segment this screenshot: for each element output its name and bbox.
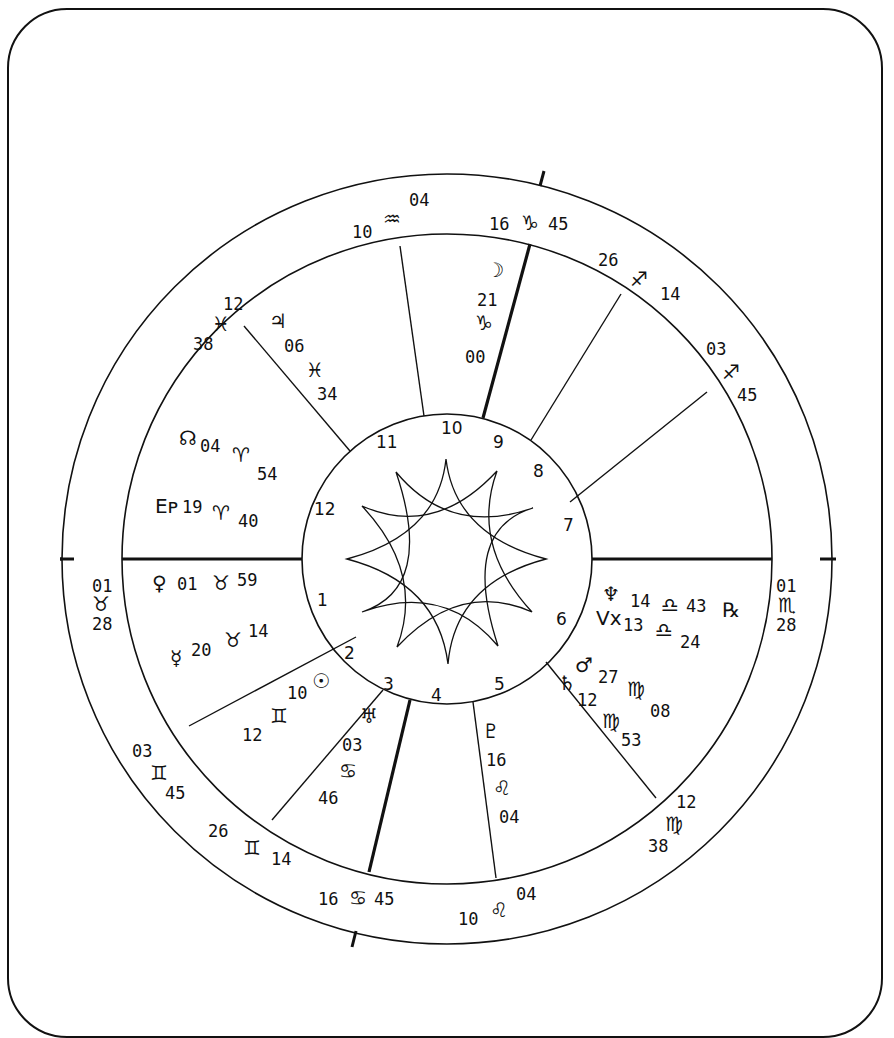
svg-text:10: 10 [352, 222, 372, 242]
svg-text:28: 28 [92, 614, 112, 634]
svg-text:26: 26 [208, 821, 228, 841]
svg-text:♈: ♈ [212, 501, 230, 525]
uranus-icon: ♅ [360, 704, 378, 728]
vertex-icon: Vx [596, 606, 622, 630]
svg-text:03: 03 [706, 339, 726, 359]
svg-text:14: 14 [271, 849, 291, 869]
planet-sun: ☉ 10 ♊ 12 [242, 669, 330, 745]
house-number: 2 [344, 643, 355, 663]
venus-icon: ♀ [152, 571, 167, 595]
svg-text:59: 59 [237, 570, 257, 590]
svg-text:19: 19 [182, 497, 202, 517]
svg-text:28: 28 [776, 615, 796, 635]
svg-text:14: 14 [660, 284, 680, 304]
svg-text:♑: ♑ [521, 211, 539, 235]
svg-text:00: 00 [465, 347, 485, 367]
svg-text:40: 40 [238, 511, 258, 531]
svg-text:♓: ♓ [306, 358, 324, 382]
svg-text:♍: ♍ [627, 677, 645, 701]
cusp-3: 26 ♊ 14 [208, 821, 291, 869]
svg-text:10: 10 [287, 683, 307, 703]
svg-text:14: 14 [248, 621, 268, 641]
svg-text:♐: ♐ [722, 360, 740, 384]
house-number: 11 [376, 432, 398, 452]
planet-mars: ♂ 27 ♍ 08 [575, 653, 670, 721]
svg-text:♌: ♌ [493, 776, 511, 800]
imum-coeli-tick [352, 931, 356, 947]
svg-text:♓: ♓ [212, 312, 230, 336]
svg-text:14: 14 [630, 591, 650, 611]
svg-text:38: 38 [193, 334, 213, 354]
svg-text:16: 16 [486, 750, 506, 770]
planet-vertex: Vx 13 ♎ 24 [596, 606, 700, 652]
mercury-icon: ☿ [170, 646, 182, 670]
svg-text:♈: ♈ [232, 443, 250, 467]
svg-text:46: 46 [318, 788, 338, 808]
svg-text:♏: ♏ [778, 593, 796, 617]
earth-point-icon: Eᴘ [155, 494, 178, 518]
planet-earth-point: Eᴘ 19 ♈ 40 [155, 494, 258, 531]
neptune-icon: ♆ [602, 582, 620, 606]
cusp-9: 26 ♐ 14 [598, 250, 680, 304]
midheaven-tick [540, 171, 544, 186]
svg-text:♉: ♉ [212, 571, 230, 595]
svg-text:♍: ♍ [665, 812, 683, 836]
svg-text:53: 53 [621, 730, 641, 750]
svg-text:45: 45 [737, 385, 757, 405]
sun-icon: ☉ [312, 669, 330, 693]
jupiter-icon: ♃ [269, 309, 287, 333]
mars-icon: ♂ [575, 653, 593, 677]
svg-text:01: 01 [177, 574, 197, 594]
house-number: 7 [563, 515, 574, 535]
svg-text:♉: ♉ [92, 592, 110, 616]
house-number: 10 [441, 418, 463, 438]
svg-text:04: 04 [200, 436, 220, 456]
house-numbers: 1 2 3 4 5 6 7 8 9 10 11 12 [314, 418, 574, 705]
svg-text:12: 12 [676, 792, 696, 812]
svg-text:♒: ♒ [383, 207, 401, 231]
svg-text:43: 43 [686, 596, 706, 616]
planet-jupiter: ♃ 06 ♓ 34 [269, 309, 337, 404]
north-node-icon: ☊ [179, 426, 197, 450]
cusp-5: 10 ♌ 04 [458, 884, 536, 929]
saturn-icon: ♄ [558, 671, 576, 695]
svg-text:16: 16 [489, 214, 509, 234]
center-rosette [347, 459, 546, 664]
svg-text:04: 04 [409, 190, 429, 210]
house-number: 8 [533, 461, 544, 481]
cusp-descendant: 01 ♏ 28 [776, 576, 796, 635]
moon-icon: ☽ [486, 258, 504, 282]
cusp-12: 12 ♓ 38 [193, 294, 243, 354]
svg-text:38: 38 [648, 836, 668, 856]
svg-text:45: 45 [374, 889, 394, 909]
svg-text:♍: ♍ [602, 709, 620, 733]
svg-text:06: 06 [284, 336, 304, 356]
planet-mercury: ☿ 20 ♉ 14 [170, 621, 268, 670]
svg-text:10: 10 [458, 909, 478, 929]
planet-north-node: ☊ 04 ♈ 54 [179, 426, 277, 484]
cusp-ascendant: 01 ♉ 28 [92, 576, 112, 634]
pluto-icon: ♇ [482, 719, 500, 743]
svg-text:24: 24 [680, 632, 700, 652]
house-number: 3 [383, 674, 394, 694]
svg-text:♐: ♐ [630, 267, 648, 291]
svg-text:45: 45 [548, 214, 568, 234]
house-number: 6 [556, 609, 567, 629]
svg-text:♋: ♋ [349, 886, 367, 910]
svg-text:♉: ♉ [224, 628, 242, 652]
svg-text:♊: ♊ [243, 836, 261, 860]
svg-text:26: 26 [598, 250, 618, 270]
planet-moon: ☽ 21 ♑ 00 [465, 258, 504, 367]
svg-text:04: 04 [516, 884, 536, 904]
svg-text:♊: ♊ [150, 761, 168, 785]
svg-text:34: 34 [317, 384, 337, 404]
svg-text:♊: ♊ [270, 704, 288, 728]
svg-text:♌: ♌ [490, 898, 508, 922]
planet-venus: ♀ 01 ♉ 59 [152, 570, 257, 595]
cusp-midheaven: 16 ♑ 45 [489, 211, 568, 235]
cusp-6: 12 ♍ 38 [648, 792, 696, 856]
house-number: 12 [314, 499, 336, 519]
svg-text:03: 03 [132, 741, 152, 761]
svg-text:54: 54 [257, 464, 277, 484]
